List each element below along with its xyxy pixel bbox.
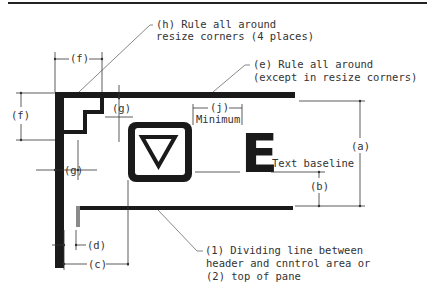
dim-f-top-label: (f) bbox=[70, 52, 89, 64]
window-rule-spec-diagram: (h) Rule all around resize corners (4 pl… bbox=[0, 0, 427, 299]
dim-g-left-label: (g) bbox=[64, 164, 83, 176]
dim-f-left-label: (f) bbox=[11, 109, 30, 121]
text-baseline-label: Text baseline bbox=[272, 157, 354, 169]
dimension-b: (b) bbox=[310, 171, 329, 207]
dim-j-note: Minimum bbox=[196, 113, 240, 125]
dim-b-label: (b) bbox=[310, 180, 329, 192]
dimension-g-left: (g) bbox=[36, 140, 97, 180]
divider-rule bbox=[76, 206, 293, 210]
dim-d-label: (d) bbox=[87, 239, 106, 251]
dim-g-top-label: (g) bbox=[112, 102, 131, 114]
dimension-f-left: (f) bbox=[11, 92, 55, 141]
callout-divider: (1) Dividing line between header and cnn… bbox=[158, 210, 370, 282]
callout-divider-line1: (1) Dividing line between bbox=[205, 244, 363, 256]
control-button bbox=[128, 122, 192, 182]
sample-letter-e: E bbox=[241, 122, 278, 185]
callout-e: (e) Rule all around (except in resize co… bbox=[213, 58, 417, 92]
callout-e-line1: (e) Rule all around bbox=[253, 58, 373, 70]
callout-h-line2: resize corners (4 places) bbox=[156, 30, 314, 42]
dim-a-label: (a) bbox=[351, 140, 370, 152]
dimension-c: (c) bbox=[63, 180, 129, 270]
callout-e-line2: (except in resize corners) bbox=[253, 71, 417, 83]
divider-gray-stub bbox=[76, 206, 80, 227]
callout-h-line1: (h) Rule all around bbox=[156, 18, 276, 30]
callout-divider-line2: header and cnntrol area or bbox=[206, 257, 370, 269]
dim-c-label: (c) bbox=[88, 258, 107, 270]
page-top-rule bbox=[8, 2, 427, 4]
dimension-a: (a) bbox=[295, 100, 370, 207]
dim-j-label: (j) bbox=[210, 101, 229, 113]
dimension-j: (j) Minimum bbox=[193, 101, 242, 125]
callout-divider-line3: (2) top of pane bbox=[206, 270, 301, 282]
dimension-f-top: (f) bbox=[54, 52, 103, 92]
